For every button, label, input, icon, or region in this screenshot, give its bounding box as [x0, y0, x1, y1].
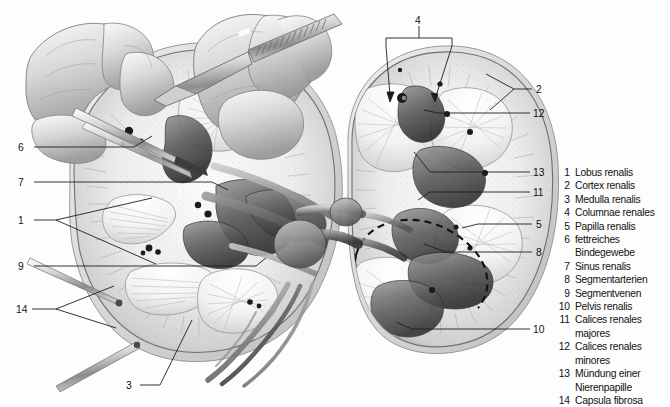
legend-number-4: 4: [556, 206, 570, 219]
legend-item-6: 6 fettreiches Bindegewebe: [556, 233, 668, 260]
callout-14: 14: [16, 304, 27, 315]
legend-item-7: 7 Sinus renalis: [556, 260, 668, 273]
legend-item-4: 4 Columnae renales: [556, 206, 668, 219]
legend-number-14: 14: [556, 394, 570, 407]
legend-label-7: Sinus renalis: [570, 260, 631, 273]
legend-list: 1 Lobus renalis 2 Cortex renalis 3 Medul…: [556, 166, 668, 407]
renal-vein-bulb: [274, 220, 326, 268]
callout-10: 10: [533, 324, 544, 335]
legend-item-13: 13 Mündung einer Nierenpapille: [556, 367, 668, 394]
leader-4-bracket: [386, 38, 452, 46]
callout-2: 2: [536, 84, 542, 95]
callout-8: 8: [536, 247, 542, 258]
callout-4: 4: [415, 15, 421, 26]
callout-11: 11: [533, 187, 544, 198]
legend-label-11: Calices renales majores: [570, 313, 668, 340]
callout-6: 6: [18, 142, 24, 153]
legend-number-8: 8: [556, 273, 570, 286]
legend-label-12: Calices renales minores: [570, 340, 668, 367]
callout-7: 7: [18, 177, 24, 188]
legend-number-11: 11: [556, 313, 570, 326]
legend-label-2: Cortex renalis: [570, 179, 635, 192]
callout-3: 3: [126, 380, 132, 391]
callout-12: 12: [533, 108, 544, 119]
legend-item-5: 5 Papilla renalis: [556, 220, 668, 233]
legend-item-8: 8 Segmentarterien: [556, 273, 668, 286]
legend-number-12: 12: [556, 340, 570, 353]
legend-label-1: Lobus renalis: [570, 166, 633, 179]
right-kidney-section: [340, 40, 580, 370]
legend-item-9: 9 Segmentvenen: [556, 287, 668, 300]
callout-9: 9: [18, 261, 24, 272]
legend-number-7: 7: [556, 260, 570, 273]
legend-number-5: 5: [556, 220, 570, 233]
legend-label-8: Segmentarterien: [570, 273, 647, 286]
legend-number-1: 1: [556, 166, 570, 179]
legend-item-10: 10 Pelvis renalis: [556, 300, 668, 313]
legend-label-9: Segmentvenen: [570, 287, 641, 300]
legend-item-2: 2 Cortex renalis: [556, 179, 668, 192]
legend-item-14: 14 Capsula fibrosa: [556, 394, 668, 407]
legend-label-3: Medulla renalis: [570, 193, 641, 206]
legend-number-10: 10: [556, 300, 570, 313]
legend-item-12: 12 Calices renales minores: [556, 340, 668, 367]
callout-13: 13: [533, 167, 544, 178]
legend-number-9: 9: [556, 287, 570, 300]
callout-1: 1: [18, 215, 24, 226]
legend-label-13: Mündung einer Nierenpapille: [570, 367, 640, 394]
callout-5: 5: [536, 219, 542, 230]
legend-label-14: Capsula fibrosa: [570, 394, 643, 407]
legend-label-10: Pelvis renalis: [570, 300, 632, 313]
legend-label-6: fettreiches Bindegewebe: [570, 233, 635, 260]
legend-label-5: Papilla renalis: [570, 220, 635, 233]
legend-number-6: 6: [556, 233, 570, 246]
legend-item-1: 1 Lobus renalis: [556, 166, 668, 179]
legend-number-13: 13: [556, 367, 570, 380]
legend-item-11: 11 Calices renales majores: [556, 313, 668, 340]
legend-number-3: 3: [556, 193, 570, 206]
legend-label-4: Columnae renales: [570, 206, 655, 219]
legend-number-2: 2: [556, 179, 570, 192]
legend-item-3: 3 Medulla renalis: [556, 193, 668, 206]
